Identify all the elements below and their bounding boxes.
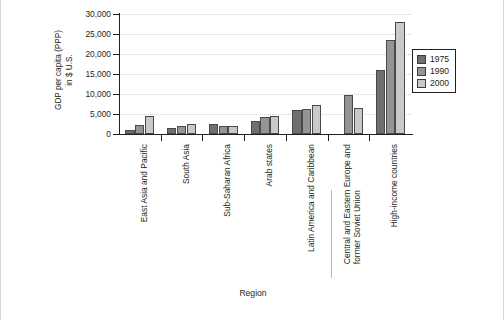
bar-group — [292, 14, 321, 134]
bar — [270, 116, 279, 134]
legend-label: 2000 — [430, 79, 449, 88]
bar — [386, 40, 395, 134]
bar — [292, 110, 301, 134]
x-axis-tick-mark — [286, 134, 287, 141]
bar — [395, 22, 404, 134]
y-axis-tick-label: 15,000 — [49, 70, 111, 78]
bar — [354, 108, 363, 134]
legend-swatch — [417, 67, 426, 76]
bar-group — [334, 14, 363, 134]
bar — [209, 124, 218, 134]
y-axis-tick-mark — [113, 114, 119, 115]
x-axis-tick-mark — [202, 134, 203, 141]
y-axis-tick-mark — [113, 134, 119, 135]
category-label-line: Latin America and Caribbean — [306, 144, 316, 252]
bar — [312, 105, 321, 134]
y-axis-tick-label: 10,000 — [49, 90, 111, 98]
plot-area — [119, 14, 411, 134]
bar-group — [376, 14, 405, 134]
bar-group — [125, 14, 154, 134]
category-label-line: Sub-Saharan Africa — [222, 144, 232, 217]
y-axis-tick-labels: 05,00010,00015,00020,00025,00030,000 — [45, 0, 111, 320]
y-axis-tick-label: 0 — [49, 130, 111, 138]
bar-group — [251, 14, 280, 134]
x-axis-category-label: Sub-Saharan Africa — [220, 144, 234, 264]
chart-figure: GDP per capita (PPP) in $ U.S. 05,00010,… — [0, 0, 504, 320]
y-axis-tick-mark — [113, 94, 119, 95]
category-label-line: Central and Eastern Europe and — [342, 144, 352, 264]
x-axis-category-label: South Asia — [179, 144, 193, 264]
x-axis-category-label: Latin America and Caribbean — [304, 144, 318, 264]
bar — [302, 109, 311, 134]
legend-item: 1990 — [417, 65, 449, 77]
bar — [145, 116, 154, 134]
x-axis-title: Region — [1, 288, 504, 298]
bar-group — [167, 14, 196, 134]
y-axis-tick-label: 25,000 — [49, 30, 111, 38]
category-label-line: former Soviet Union — [352, 144, 362, 264]
legend-label: 1975 — [430, 55, 449, 64]
y-axis-tick-mark — [113, 74, 119, 75]
legend-item: 2000 — [417, 77, 449, 89]
bar — [376, 70, 385, 134]
y-axis-tick-mark — [113, 54, 119, 55]
bar — [177, 126, 186, 134]
legend-swatch — [417, 55, 426, 64]
x-axis-tick-mark — [244, 134, 245, 141]
x-axis-category-label: High-income countries — [387, 144, 401, 264]
y-axis-tick-label: 5,000 — [49, 110, 111, 118]
bar — [228, 126, 237, 134]
x-axis-tick-mark — [369, 134, 370, 141]
x-axis-category-label: East Asia and Pacific — [137, 144, 151, 264]
x-axis-category-label: Central and Eastern Europe andformer Sov… — [345, 144, 359, 264]
y-axis-tick-label: 30,000 — [49, 10, 111, 18]
category-label-line: Arab states — [264, 144, 274, 186]
category-label-line: East Asia and Pacific — [139, 144, 149, 222]
legend-swatch — [417, 79, 426, 88]
bar — [251, 121, 260, 134]
bar — [135, 125, 144, 134]
category-label-line: High-income countries — [389, 144, 399, 227]
y-axis-tick-mark — [113, 14, 119, 15]
bar — [344, 95, 353, 134]
category-label-line: South Asia — [181, 144, 191, 184]
x-axis-category-label: Arab states — [262, 144, 276, 264]
legend-item: 1975 — [417, 53, 449, 65]
leader-line-artifact — [331, 190, 332, 278]
bar-group — [209, 14, 238, 134]
y-axis-tick-label: 20,000 — [49, 50, 111, 58]
bar — [219, 126, 228, 134]
legend-label: 1990 — [430, 67, 449, 76]
x-axis-tick-mark — [161, 134, 162, 141]
legend: 197519902000 — [412, 49, 456, 93]
y-axis-line — [119, 13, 120, 135]
x-axis-tick-mark — [328, 134, 329, 141]
y-axis-tick-mark — [113, 34, 119, 35]
bar — [187, 124, 196, 134]
bar — [260, 117, 269, 134]
